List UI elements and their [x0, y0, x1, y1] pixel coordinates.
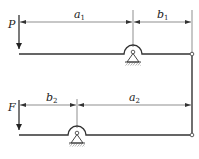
ground-hatch: [125, 63, 141, 66]
pin-support-bottom: [69, 131, 85, 146]
hinge-top-end: [190, 52, 194, 56]
lever-diagram: P a1 b1 F: [0, 0, 199, 159]
force-label-p: P: [7, 18, 16, 31]
dimension-label-b1: b1: [157, 8, 169, 22]
dimension-top: a1 b1: [20, 8, 192, 54]
top-lever: P a1 b1: [7, 8, 194, 66]
dimension-label-a2: a2: [129, 91, 140, 105]
beam-top: [19, 45, 190, 54]
bottom-lever: F b2 a2: [7, 91, 194, 147]
force-label-f: F: [7, 101, 16, 114]
dimension-bottom: b2 a2: [20, 91, 191, 128]
ground-hatch: [69, 144, 85, 147]
pin-support-top: [125, 50, 141, 65]
dimension-label-a1: a1: [74, 8, 85, 22]
hinge-bottom-end: [190, 133, 194, 137]
beam-bottom: [19, 126, 190, 135]
dimension-label-b2: b2: [46, 91, 58, 105]
